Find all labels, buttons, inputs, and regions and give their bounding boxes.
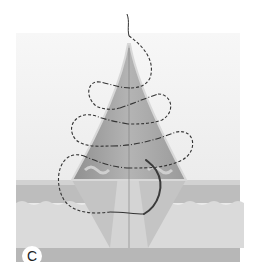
suture-diagram	[0, 0, 254, 274]
base-layer	[16, 248, 240, 262]
panel-label: C	[22, 246, 42, 266]
suture-tail	[127, 14, 129, 36]
